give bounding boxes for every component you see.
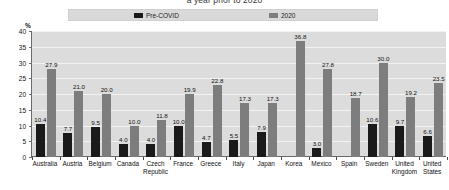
bar-value-label: 19.2 [405,89,417,96]
bar: 17.3 [268,103,277,157]
x-axis-category-label: Japan [252,160,280,168]
bar-group: 3.027.8 [309,31,337,157]
chart-figure: a year prior to 2020 Pre-COVID 2020 % 10… [0,0,449,190]
x-axis-category-label: Korea [280,160,308,168]
bar-group: 10.019.9 [170,31,198,157]
bar-value-label: 9.5 [91,119,100,126]
bar-value-label: 17.3 [267,95,279,102]
bar: 7.7 [63,133,72,157]
bar: 11.8 [157,120,166,157]
bar: 10.0 [130,126,139,158]
bar: 7.9 [257,132,266,157]
bar-group: 18.7 [336,31,364,157]
bar: 10.0 [174,126,183,158]
bar-value-label: 4.0 [119,136,128,143]
bar: 4.0 [146,144,155,157]
bar-value-label: 30.0 [377,55,389,62]
y-tick-label: 0 [10,154,26,161]
bar: 27.9 [47,69,56,157]
bar-value-label: 10.4 [34,116,46,123]
bar-value-label: 17.3 [239,95,251,102]
bar: 4.0 [119,144,128,157]
bar-group: 10.630.0 [364,31,392,157]
bar-value-label: 27.8 [322,61,334,68]
x-axis-category-label: Greece [197,160,225,168]
x-axis-category-label: United States [418,160,446,175]
chart-legend: Pre-COVID 2020 [68,9,378,21]
x-axis-category-label: Belgium [86,160,114,168]
bar: 10.6 [368,124,377,157]
y-tick-label: 40 [10,28,26,35]
x-axis-category-label: United Kingdom [391,160,419,175]
bar: 22.8 [213,85,222,157]
bar-value-label: 36.8 [294,33,306,40]
bar: 9.7 [395,126,404,157]
legend-swatch-2020 [269,13,278,18]
bar-value-label: 3.0 [313,140,322,147]
bar-group: 4.011.8 [143,31,171,157]
plot-area: 10.427.97.721.09.520.04.010.04.011.810.0… [31,31,446,157]
bar-group: 6.623.5 [419,31,447,157]
bar-value-label: 4.0 [147,136,156,143]
x-axis-category-label: Australia [31,160,59,168]
bar: 21.0 [74,91,83,157]
bar: 36.8 [296,41,305,157]
x-axis-category-label: Italy [225,160,253,168]
bar-value-label: 19.9 [184,86,196,93]
x-axis-category-label: Spain [335,160,363,168]
bar-value-label: 5.5 [230,132,239,139]
x-axis-category-label: Austria [59,160,87,168]
legend-label-2020: 2020 [281,12,295,19]
legend-item-2020: 2020 [269,12,295,19]
y-tick-label: 10 [10,122,26,129]
bar-group: 7.721.0 [60,31,88,157]
y-tick-label: 15 [10,106,26,113]
legend-label-pre-covid: Pre-COVID [146,12,179,19]
bar-group: 36.8 [281,31,309,157]
bar: 3.0 [312,148,321,157]
chart-title: a year prior to 2020 [0,0,449,5]
bar-value-label: 10.6 [366,116,378,123]
x-axis-category-label: Canada [114,160,142,168]
y-tick-label: 20 [10,91,26,98]
legend-item-pre-covid: Pre-COVID [134,12,179,19]
bar-value-label: 7.7 [64,125,73,132]
x-tick-mark [447,157,448,160]
bar: 5.5 [229,140,238,157]
bar: 4.7 [202,142,211,157]
bar-group: 9.520.0 [87,31,115,157]
bar-value-label: 21.0 [73,83,85,90]
bar-value-label: 18.7 [350,90,362,97]
bar-group: 4.722.8 [198,31,226,157]
bar-group: 5.517.3 [226,31,254,157]
bar-value-label: 6.6 [423,128,432,135]
bar-value-label: 11.8 [156,112,168,119]
bar-value-label: 4.7 [202,134,211,141]
x-axis-category-label: France [169,160,197,168]
bar-value-label: 23.5 [433,75,445,82]
bar: 27.8 [323,69,332,157]
bar: 30.0 [379,63,388,158]
bar: 19.9 [185,94,194,157]
bar: 18.7 [351,98,360,157]
x-axis-category-label: Czech Republic [142,160,170,175]
bar-group: 7.917.3 [253,31,281,157]
y-tick-label: 25 [10,75,26,82]
bar: 19.2 [406,97,415,157]
bar: 20.0 [102,94,111,157]
bar: 6.6 [423,136,432,157]
legend-swatch-pre-covid [134,13,143,18]
bar-value-label: 9.7 [396,118,405,125]
bar: 10.4 [36,124,45,157]
bar: 17.3 [240,103,249,157]
x-axis-category-label: Mexico [308,160,336,168]
y-tick-label: 30 [10,59,26,66]
y-tick-label: 5 [10,138,26,145]
bar-value-label: 10.0 [173,118,185,125]
x-axis-category-label: Sweden [363,160,391,168]
y-tick-label: 35 [10,43,26,50]
bar: 23.5 [434,83,443,157]
bar-value-label: 27.9 [45,61,57,68]
bar-value-label: 10.0 [128,118,140,125]
bar-group: 9.719.2 [392,31,420,157]
